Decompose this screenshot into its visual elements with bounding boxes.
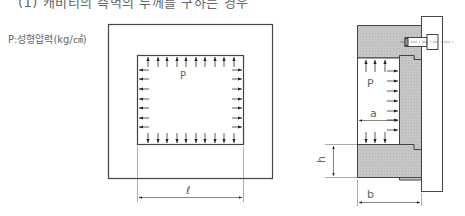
dimension-h-label: h	[315, 156, 328, 163]
dimension-h	[325, 145, 357, 178]
dimension-a-label: a	[370, 107, 377, 120]
left-cavity	[138, 56, 244, 145]
dimension-l-label: ℓ	[185, 184, 191, 197]
right-pressure-symbol: P	[367, 77, 374, 90]
left-pressure-symbol: P	[180, 70, 186, 81]
lower-mold-block	[358, 145, 422, 178]
dimension-b-label: b	[367, 188, 374, 201]
mold-diagram: P ℓ	[0, 0, 465, 216]
